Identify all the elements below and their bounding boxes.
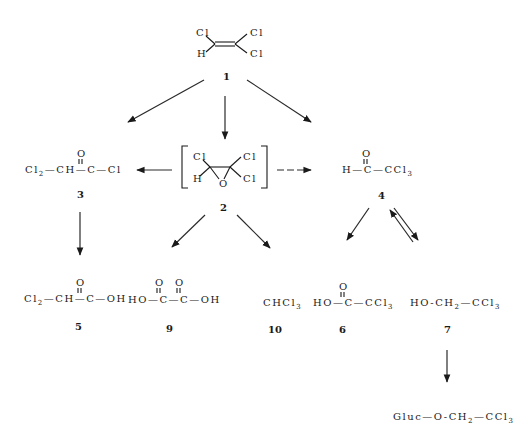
compound-number: 10 bbox=[268, 324, 282, 335]
arrow-2-to-9 bbox=[172, 215, 205, 247]
compound-number: 5 bbox=[75, 321, 82, 332]
atom-cl: Cl bbox=[250, 48, 264, 59]
atom-o: O bbox=[219, 178, 229, 189]
atom-o: O bbox=[339, 281, 349, 292]
carbonyl-carbon: C bbox=[87, 164, 96, 175]
atom-o: O bbox=[77, 148, 87, 159]
bond bbox=[206, 44, 215, 52]
carbonyl-carbon: C bbox=[344, 297, 353, 308]
formula-part: HO— bbox=[313, 297, 344, 308]
formula-part: —CCl bbox=[474, 411, 509, 422]
formula-part: —Cl bbox=[96, 164, 121, 175]
pathway-diagram: Cl H Cl Cl 1 Cl H O Cl Cl 2 Cl2—CH— bbox=[0, 0, 519, 446]
formula-part: HO-CH bbox=[410, 297, 455, 308]
formula-part: Cl bbox=[25, 164, 39, 175]
bracket-left bbox=[182, 146, 188, 188]
svg-text:CHCl3: CHCl3 bbox=[263, 297, 302, 311]
atom-cl: Cl bbox=[243, 151, 257, 162]
formula-part: —CCl bbox=[373, 164, 408, 175]
formula-part: —CCl bbox=[461, 297, 496, 308]
subscript: 3 bbox=[388, 303, 394, 311]
atom-o: O bbox=[362, 148, 372, 159]
compound-7: HO-CH2—CCl3 7 bbox=[410, 297, 501, 335]
formula-part: —OH bbox=[95, 293, 126, 304]
atom-cl: Cl bbox=[196, 27, 210, 38]
bond bbox=[230, 157, 241, 167]
bond bbox=[200, 167, 210, 176]
compound-number: 1 bbox=[223, 71, 230, 82]
bond bbox=[235, 44, 247, 53]
compound-number: 4 bbox=[378, 190, 385, 201]
svg-text:HO—C—CCl3: HO—C—CCl3 bbox=[313, 297, 394, 311]
arrow-1-to-4 bbox=[247, 80, 311, 122]
atom-o: O bbox=[76, 277, 86, 288]
compound-glucuronide: Gluc—O-CH2—CCl3 bbox=[393, 411, 515, 425]
svg-text:HO—C—C—OH: HO—C—C—OH bbox=[128, 294, 221, 305]
bond bbox=[206, 36, 215, 44]
compound-6: HO—C—CCl3 O 6 bbox=[313, 281, 394, 335]
compound-3: Cl2—CH—C—Cl O 3 bbox=[25, 148, 122, 200]
formula-part: Cl bbox=[24, 293, 38, 304]
svg-text:H—C—CCl3: H—C—CCl3 bbox=[342, 164, 413, 178]
compound-number: 9 bbox=[166, 323, 173, 334]
bond bbox=[210, 167, 219, 179]
compound-2: Cl H O Cl Cl 2 bbox=[182, 146, 267, 213]
formula-part: — bbox=[169, 294, 181, 305]
compound-9: HO—C—C—OH O O 9 bbox=[128, 277, 221, 334]
arrow-4-to-7 bbox=[394, 208, 418, 240]
svg-text:Gluc—O-CH2—CCl3: Gluc—O-CH2—CCl3 bbox=[393, 411, 515, 425]
compound-number: 3 bbox=[77, 189, 84, 200]
compound-1: Cl H Cl Cl 1 bbox=[196, 27, 264, 82]
carbonyl-carbon: C bbox=[364, 164, 373, 175]
compound-number: 6 bbox=[339, 324, 346, 335]
formula-part: HO— bbox=[128, 294, 159, 305]
atom-o: O bbox=[175, 277, 185, 288]
compound-number: 7 bbox=[444, 324, 451, 335]
arrow-1-to-3 bbox=[128, 80, 204, 122]
formula-part: —CCl bbox=[354, 297, 389, 308]
svg-text:Cl2—CH—C—Cl: Cl2—CH—C—Cl bbox=[25, 164, 122, 178]
formula-part: CHCl bbox=[263, 297, 296, 308]
bond bbox=[230, 167, 241, 177]
carbonyl-carbon: C bbox=[180, 294, 189, 305]
compound-10: CHCl3 10 bbox=[263, 297, 302, 335]
carbonyl-carbon: C bbox=[86, 293, 95, 304]
compound-5: Cl2—CH—C—OH O 5 bbox=[24, 277, 127, 332]
atom-cl: Cl bbox=[250, 27, 264, 38]
compound-number: 2 bbox=[220, 202, 227, 213]
atom-cl: Cl bbox=[243, 173, 257, 184]
svg-text:HO-CH2—CCl3: HO-CH2—CCl3 bbox=[410, 297, 501, 311]
atom-cl: Cl bbox=[193, 151, 207, 162]
carbonyl-carbon: C bbox=[159, 294, 168, 305]
subscript: 3 bbox=[407, 170, 413, 178]
formula-part: —CH— bbox=[44, 293, 86, 304]
formula-part: —CH— bbox=[45, 164, 87, 175]
formula-part: —OH bbox=[189, 294, 220, 305]
bond bbox=[235, 34, 247, 44]
compound-4: H—C—CCl3 O 4 bbox=[342, 148, 413, 201]
subscript: 3 bbox=[509, 417, 515, 425]
arrow-2-to-10 bbox=[237, 215, 270, 248]
atom-h: H bbox=[197, 48, 207, 59]
formula-part: Gluc—O-CH bbox=[393, 411, 468, 422]
arrow-7-to-4 bbox=[390, 210, 413, 242]
atom-o: O bbox=[155, 277, 165, 288]
svg-text:Cl2—CH—C—OH: Cl2—CH—C—OH bbox=[24, 293, 127, 307]
subscript: 3 bbox=[495, 303, 501, 311]
formula-part: H— bbox=[342, 164, 364, 175]
bracket-right bbox=[261, 146, 267, 188]
subscript: 3 bbox=[296, 303, 302, 311]
arrow-4-to-6 bbox=[347, 208, 369, 240]
